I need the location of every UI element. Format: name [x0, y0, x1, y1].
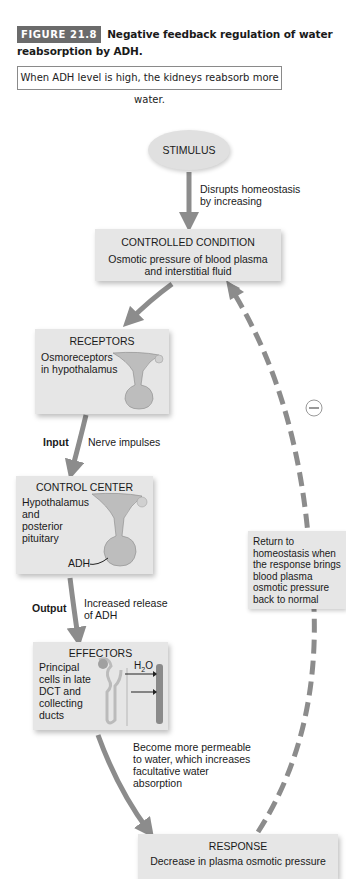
pituitary-illustration [90, 492, 152, 572]
adh-label: ADH [68, 557, 90, 569]
response-box: RESPONSE Decrease in plasma osmotic pres… [138, 834, 338, 879]
output-description: Increased release of ADH [84, 597, 167, 621]
controlled-condition-text: Osmotic pressure of blood plasma and int… [95, 253, 281, 277]
receptors-title: RECEPTORS [41, 335, 163, 347]
effector-arrow-label: Become more permeable to water, which in… [133, 741, 251, 789]
output-label: Output [32, 602, 66, 614]
hypothalamus-illustration [109, 351, 169, 411]
effectors-box: EFFECTORS Principal cells in late DCT an… [33, 642, 168, 730]
input-arrow [72, 415, 86, 470]
input-description: Nerve impulses [88, 436, 160, 448]
input-label: Input [43, 436, 69, 448]
controlled-condition-box: CONTROLLED CONDITION Osmotic pressure of… [95, 229, 281, 281]
feedback-text: Return to homeostasis when the response … [253, 536, 341, 605]
output-arrow [70, 578, 78, 637]
controlled-condition-title: CONTROLLED CONDITION [95, 236, 281, 248]
nephron-illustration [91, 656, 171, 731]
response-title: RESPONSE [138, 840, 338, 852]
response-text: Decrease in plasma osmotic pressure [138, 855, 338, 867]
control-center-box: CONTROL CENTER Hypothalamus and posterio… [16, 476, 153, 574]
feedback-box: Return to homeostasis when the response … [248, 531, 346, 609]
stimulus-arrow-label: Disrupts homeostasis by increasing [200, 183, 300, 207]
receptors-box: RECEPTORS Osmoreceptors in hypothalamus [35, 329, 169, 414]
stimulus-node: STIMULUS [148, 130, 230, 170]
condition-to-receptors-arrow [130, 284, 172, 320]
stimulus-label: STIMULUS [162, 144, 215, 156]
